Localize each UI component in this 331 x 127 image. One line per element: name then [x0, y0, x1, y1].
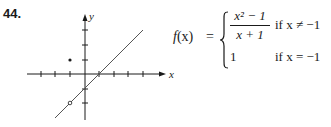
open-point-icon — [68, 101, 72, 105]
fraction-numerator: x² − 1 — [230, 8, 270, 24]
x-axis-label: x — [168, 68, 174, 80]
case1-condition: if x ≠ −1 — [275, 17, 320, 33]
y-axis-arrow-icon — [83, 14, 88, 21]
equals-sign: = — [206, 29, 214, 45]
left-brace-icon — [219, 11, 229, 69]
x-axis-arrow-icon — [159, 72, 166, 77]
function-graph: x y — [0, 0, 180, 127]
case2-value: 1 — [230, 49, 237, 65]
filled-point-icon — [68, 58, 71, 61]
fraction: x² − 1 x + 1 — [230, 8, 270, 43]
fraction-bar — [230, 25, 270, 26]
case2-condition: if x = −1 — [275, 49, 320, 65]
fraction-denominator: x + 1 — [230, 27, 270, 43]
y-axis-label: y — [88, 10, 94, 22]
piecewise-formula: f(x) = x² − 1 x + 1 if x ≠ −1 1 if x = −… — [163, 8, 331, 68]
function-name: f(x) — [173, 29, 193, 45]
